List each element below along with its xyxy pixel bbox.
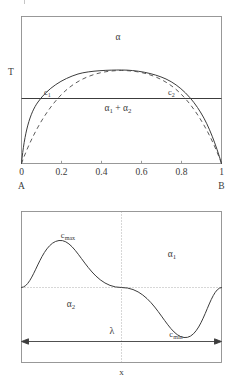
- phase-diagram-xtick-1: 0.2: [56, 168, 68, 178]
- figure-root: T α α1 + α2 c1 c2 0 0.2 0.4 0.6 0.8 1 A …: [0, 0, 238, 386]
- region-alpha2-sub: 2: [72, 303, 75, 310]
- wavelength-arrow-head-right: [215, 339, 222, 344]
- phase-diagram-xtick-0: 0: [19, 168, 24, 178]
- endpoint-label-a: A: [18, 182, 25, 192]
- spinodal-curve: [22, 71, 222, 164]
- wavelength-arrow: [22, 339, 222, 344]
- phase-diagram-xtick-2: 0.4: [96, 168, 108, 178]
- composition-c2-label: c2: [168, 88, 175, 98]
- wavelength-arrow-head-left: [22, 339, 29, 344]
- wavelength-label: λ: [110, 326, 115, 336]
- region-alpha2-label: α2: [67, 300, 75, 311]
- phase-diagram-y-axis-label: T: [8, 68, 14, 78]
- c-max-sub: max: [65, 235, 76, 241]
- two-phase-region-label: α1 + α2: [105, 104, 132, 115]
- region-alpha1-sub: 1: [173, 253, 176, 260]
- two-phase-plus: +: [113, 103, 123, 113]
- composition-wave-x-axis-label: x: [119, 368, 124, 377]
- single-phase-region-label: α: [116, 33, 121, 43]
- phase-diagram-frame: [22, 17, 222, 164]
- phase-diagram-xtick-3: 0.6: [136, 168, 148, 178]
- phase-diagram-xtick-4: 0.8: [176, 168, 188, 178]
- composition-wave-panel: [22, 212, 222, 363]
- c-min-sub: min: [173, 334, 183, 340]
- c-max-label: cmax: [61, 231, 75, 241]
- phase-diagram-xtick-5: 1: [219, 168, 224, 178]
- phase-diagram-panel: [22, 17, 222, 164]
- endpoint-label-b: B: [218, 182, 224, 192]
- two-phase-alpha2-sub: 2: [128, 107, 131, 114]
- phase-diagram-xticks: [22, 159, 222, 164]
- binodal-curve: [22, 70, 222, 164]
- c-min-label: cmin: [169, 330, 182, 340]
- figure-canvas: [0, 0, 238, 386]
- c2-sub: 2: [172, 92, 175, 98]
- composition-c1-label: c1: [44, 88, 51, 98]
- c1-sub: 1: [48, 92, 51, 98]
- region-alpha1-label: α1: [168, 250, 176, 261]
